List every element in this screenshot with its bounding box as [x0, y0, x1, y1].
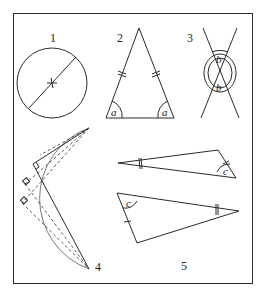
angle-label-left: a	[111, 106, 117, 118]
angle-label-bottom: b	[216, 81, 222, 93]
right-angle-mark-1	[36, 162, 39, 169]
equal-side-tick-right-2	[152, 74, 160, 77]
chord-dashed-3a	[22, 128, 89, 203]
panel-5-congruent-triangles: 5 c c	[117, 150, 239, 273]
semicircle-arc	[40, 128, 89, 269]
triangle-top	[118, 150, 236, 178]
angle-arc-top-outer	[212, 50, 228, 52]
panel-4-semicircle-right-angles: 4	[20, 128, 101, 274]
triangle-bottom	[117, 193, 239, 243]
angle-label-bottom: c	[126, 197, 131, 209]
side-tick-bottom	[124, 221, 131, 222]
geometry-figure: 1 2 a a 3 b b 4	[0, 0, 265, 297]
chord-dashed-2b	[25, 184, 89, 269]
panel-5-label: 5	[181, 259, 187, 273]
panel-2-label: 2	[117, 31, 123, 45]
chord-dashed-1	[40, 128, 89, 155]
angle-label-top: b	[216, 53, 222, 65]
right-angle-mark-2	[23, 178, 30, 185]
angle-label-top: c	[223, 165, 228, 177]
panel-2-isosceles-triangle: 2 a a	[106, 28, 174, 118]
panel-3-vertical-angles: 3 b b	[187, 28, 239, 118]
chord-solid-top	[33, 128, 89, 164]
panel-1-circle-diameter: 1	[17, 31, 87, 118]
angle-mark-top-1	[139, 158, 140, 169]
chord-dashed-2a	[25, 128, 89, 184]
chord-dashed-3b	[22, 203, 89, 269]
panel-1-label: 1	[50, 31, 56, 45]
angle-label-right: a	[162, 106, 168, 118]
panel-3-label: 3	[187, 31, 193, 45]
panel-4-label: 4	[95, 260, 101, 274]
